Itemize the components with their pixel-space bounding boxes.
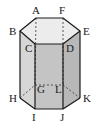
vertex-label-F: F	[59, 4, 65, 16]
vertex-label-L: L	[55, 83, 62, 95]
vertex-label-G: G	[37, 83, 45, 95]
vertex-label-C: C	[25, 42, 32, 54]
front-face	[35, 44, 63, 109]
vertex-label-B: B	[9, 25, 16, 37]
vertex-label-H: H	[9, 92, 17, 104]
vertex-label-J: J	[60, 111, 65, 123]
vertex-label-D: D	[66, 42, 74, 54]
vertex-label-I: I	[32, 111, 36, 123]
vertex-label-A: A	[32, 4, 40, 16]
prism-figure: A F B E C D G L H K I J	[0, 0, 102, 124]
vertex-label-K: K	[83, 92, 91, 104]
vertex-label-E: E	[83, 25, 90, 37]
hexagonal-prism-diagram: A F B E C D G L H K I J	[0, 0, 102, 124]
